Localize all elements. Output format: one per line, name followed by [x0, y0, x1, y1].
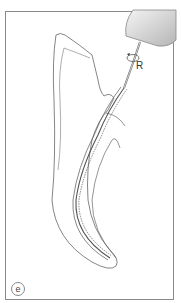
handpiece-icon — [126, 10, 176, 46]
panel-letter-badge: e — [11, 282, 25, 296]
rotation-label: R — [136, 60, 143, 71]
tooth-root-canal-illustration — [0, 0, 181, 303]
